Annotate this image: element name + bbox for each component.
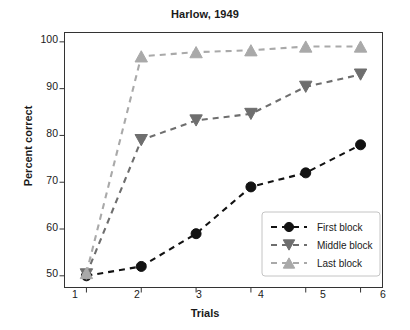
data-point bbox=[356, 140, 366, 150]
data-point bbox=[191, 229, 201, 239]
data-point bbox=[136, 261, 146, 271]
x-tick-marks bbox=[86, 288, 360, 293]
chart-legend: First blockMiddle blockLast block bbox=[262, 212, 380, 276]
plot-area: First blockMiddle blockLast block bbox=[0, 0, 410, 330]
legend-label: First block bbox=[317, 222, 364, 233]
data-point bbox=[246, 182, 256, 192]
y-tick-marks bbox=[60, 42, 65, 276]
legend-label: Last block bbox=[317, 258, 363, 269]
data-point bbox=[301, 168, 311, 178]
chart-container: Harlow, 1949 Percent correct Trials 100 … bbox=[0, 0, 410, 330]
legend-label: Middle block bbox=[317, 240, 374, 251]
